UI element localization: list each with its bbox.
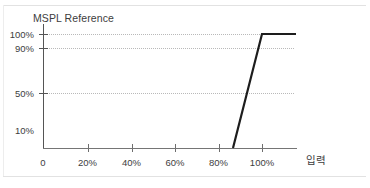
plot-area: 100% 90% 50% 10% 0 20% 40% 60% 80% 100% … bbox=[43, 24, 297, 148]
page-rule-bottom bbox=[3, 176, 366, 177]
x-tick-label-60: 60% bbox=[165, 157, 184, 168]
transfer-curve bbox=[43, 24, 297, 150]
x-tick-label-20: 20% bbox=[78, 157, 97, 168]
x-axis-label: 입력 bbox=[306, 152, 326, 167]
x-tick-label-80: 80% bbox=[209, 157, 228, 168]
y-tick-label-100: 100% bbox=[10, 29, 34, 40]
chart-figure: MSPL Reference 100% 90% 50% 10% 0 20% 40… bbox=[0, 0, 370, 188]
x-tick-label-100: 100% bbox=[250, 157, 274, 168]
y-tick-label-50: 50% bbox=[15, 88, 34, 99]
y-tick-label-90: 90% bbox=[15, 43, 34, 54]
curve-path bbox=[233, 34, 296, 148]
y-tick-label-10: 10% bbox=[15, 125, 34, 136]
x-tick-label-0: 0 bbox=[40, 157, 45, 168]
page-edge-left bbox=[3, 5, 4, 176]
x-tick-label-40: 40% bbox=[122, 157, 141, 168]
page-rule-top bbox=[3, 5, 366, 6]
chart-title: MSPL Reference bbox=[33, 12, 114, 24]
